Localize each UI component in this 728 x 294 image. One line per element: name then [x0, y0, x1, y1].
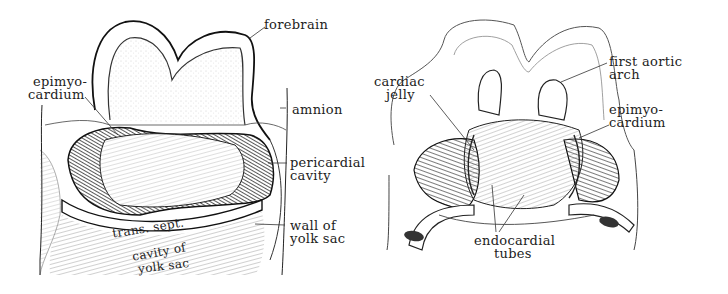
- figure-right-dissection: first aortic arch cardiac jelly epimyo- …: [364, 0, 728, 294]
- label-wall-of-yolk-sac-line2: yolk sac: [290, 232, 345, 245]
- label-forebrain: forebrain: [264, 18, 328, 31]
- figure-left-section: forebrain epimyo- cardium amnion pericar…: [0, 0, 364, 294]
- label-endocardial-tubes-line2: tubes: [494, 247, 532, 260]
- label-epimyocardium-line2: cardium: [28, 88, 85, 101]
- label-cardiac-jelly-line2: jelly: [386, 88, 415, 101]
- right-embryo-drawing: [364, 0, 728, 294]
- label-pericardial-cavity-line2: cavity: [290, 169, 331, 182]
- label-epimyocardium-line2: cardium: [609, 116, 666, 129]
- label-first-aortic-arch-line2: arch: [609, 68, 640, 81]
- label-amnion: amnion: [292, 103, 343, 116]
